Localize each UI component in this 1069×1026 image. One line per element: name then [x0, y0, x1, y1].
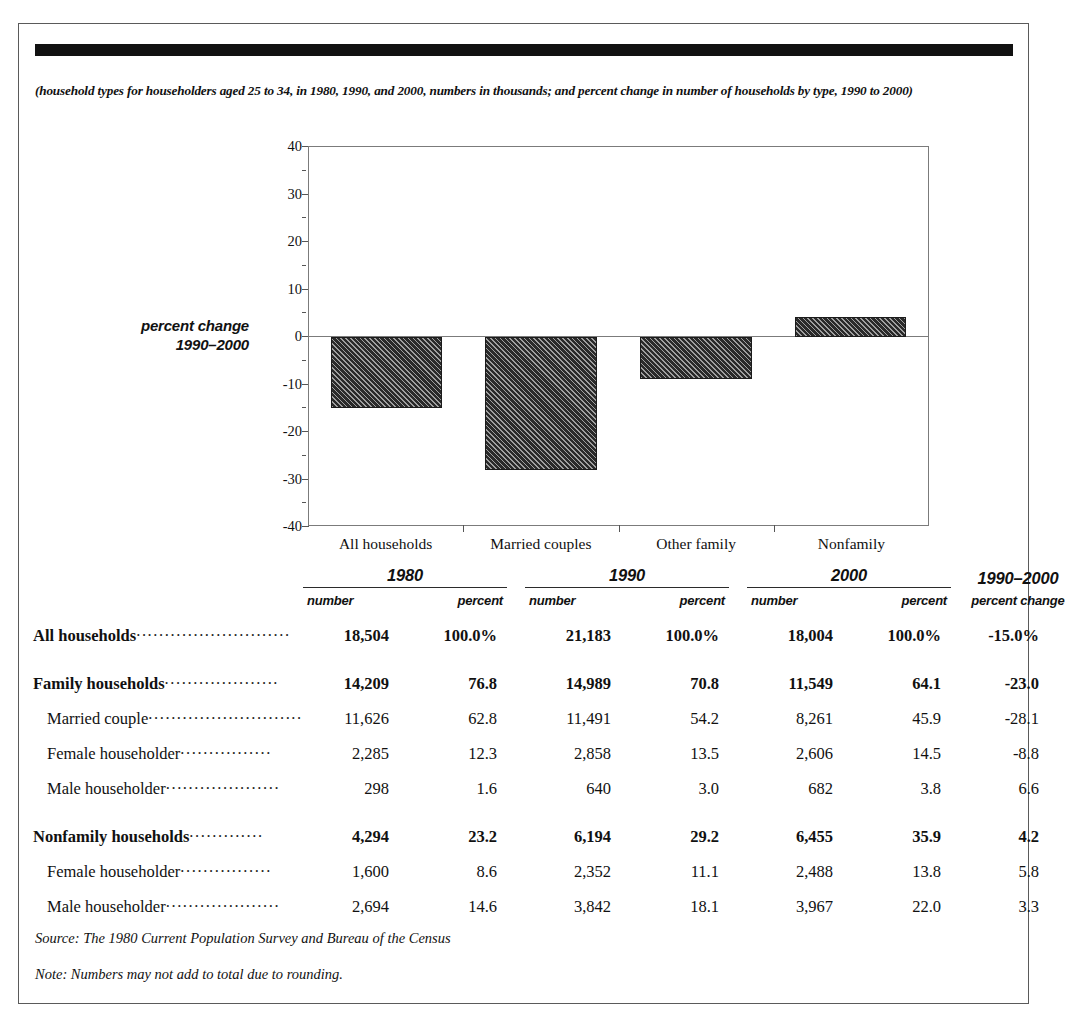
cell-percent-1980: 76.8 — [399, 646, 507, 694]
cell-percent-1980: 1.6 — [399, 764, 507, 799]
cell-percent-2000: 45.9 — [843, 694, 951, 729]
subheader-number-2000: number — [747, 588, 843, 612]
y-tick-mark-minor — [302, 502, 306, 503]
cell-percent-change: 3.3 — [951, 882, 1069, 917]
y-tick-label: 30 — [262, 185, 302, 202]
bar-married-couples — [485, 337, 596, 470]
row-label-text: Male householder — [47, 897, 166, 916]
row-label-text: Male householder — [47, 779, 166, 798]
cell-number-1990: 2,858 — [525, 729, 621, 764]
x-tick-mark — [774, 525, 775, 532]
x-axis-category-labels: All householdsMarried couplesOther famil… — [308, 535, 929, 561]
cell-percent-1990: 11.1 — [621, 847, 729, 882]
cell-percent-change: -23.0 — [951, 646, 1069, 694]
cell-percent-1990: 70.8 — [621, 646, 729, 694]
cell-number-2000: 2,606 — [747, 729, 843, 764]
table-row: Female householder ................2,285… — [19, 729, 1069, 764]
year-header-2000: 2000 — [747, 566, 951, 588]
change-header-subtitle: percent change — [951, 588, 1069, 612]
y-axis-title-line1: percent change — [59, 316, 249, 335]
y-tick-mark-minor — [302, 170, 306, 171]
cell-percent-1980: 100.0% — [399, 611, 507, 646]
y-tick-mark-minor — [302, 217, 306, 218]
row-label-text: Family households — [33, 674, 165, 693]
spacer-cell — [507, 611, 525, 646]
sub-header-row: number percent number percent number per… — [19, 588, 1069, 612]
spacer-cell — [19, 566, 303, 588]
x-tick-mark — [463, 525, 464, 532]
x-axis-tick-marks — [308, 525, 929, 533]
cell-percent-1980: 14.6 — [399, 882, 507, 917]
subheader-number-1990: number — [525, 588, 621, 612]
spacer-cell — [729, 764, 747, 799]
subheader-percent-1990: percent — [621, 588, 729, 612]
row-label: Male householder .................... — [19, 764, 303, 799]
row-leader-dots: ............. — [189, 822, 263, 842]
cell-percent-change: 4.2 — [951, 799, 1069, 847]
spacer-cell — [729, 847, 747, 882]
subheader-percent-2000: percent — [843, 588, 951, 612]
cell-percent-2000: 64.1 — [843, 646, 951, 694]
cell-percent-2000: 13.8 — [843, 847, 951, 882]
cell-percent-1990: 3.0 — [621, 764, 729, 799]
spacer-cell — [729, 694, 747, 729]
row-label-text: Female householder — [47, 862, 180, 881]
cell-percent-change: -15.0% — [951, 611, 1069, 646]
row-leader-dots: .................... — [166, 892, 281, 912]
cell-percent-change: -8.8 — [951, 729, 1069, 764]
y-tick-mark-minor — [302, 455, 306, 456]
spacer-cell — [507, 588, 525, 612]
cell-percent-2000: 14.5 — [843, 729, 951, 764]
cell-percent-change: 5.8 — [951, 847, 1069, 882]
y-tick-mark-minor — [302, 360, 306, 361]
spacer-cell — [19, 588, 303, 612]
cell-number-2000: 18,004 — [747, 611, 843, 646]
household-types-table: 1980 1990 2000 1990–2000 number percent … — [19, 566, 1069, 917]
x-category-label: All households — [339, 535, 432, 553]
cell-number-2000: 8,261 — [747, 694, 843, 729]
bars-layer — [309, 147, 928, 525]
cell-number-1990: 640 — [525, 764, 621, 799]
top-rule-bar — [35, 44, 1013, 56]
row-label: Female householder ................ — [19, 847, 303, 882]
row-label: All households .........................… — [19, 611, 303, 646]
table-body: All households .........................… — [19, 611, 1069, 917]
cell-number-2000: 2,488 — [747, 847, 843, 882]
row-label-text: Nonfamily households — [33, 827, 189, 846]
row-leader-dots: ........................... — [136, 621, 291, 641]
cell-percent-1980: 62.8 — [399, 694, 507, 729]
cell-number-1990: 6,194 — [525, 799, 621, 847]
table-row: Female householder ................1,600… — [19, 847, 1069, 882]
spacer-cell — [729, 729, 747, 764]
y-tick-mark-minor — [302, 312, 306, 313]
spacer-cell — [507, 882, 525, 917]
table-row: Male householder ....................2,6… — [19, 882, 1069, 917]
cell-number-1990: 21,183 — [525, 611, 621, 646]
row-label: Female householder ................ — [19, 729, 303, 764]
spacer-cell — [507, 847, 525, 882]
y-axis-tick-labels: 403020100-10-20-30-40 — [254, 146, 302, 526]
y-tick-label: -20 — [262, 423, 302, 440]
cell-number-1980: 4,294 — [303, 799, 399, 847]
table-row: Married couple .........................… — [19, 694, 1069, 729]
cell-percent-2000: 100.0% — [843, 611, 951, 646]
cell-number-2000: 6,455 — [747, 799, 843, 847]
row-label: Married couple .........................… — [19, 694, 303, 729]
spacer-cell — [507, 566, 525, 588]
cell-number-2000: 682 — [747, 764, 843, 799]
x-category-label: Nonfamily — [818, 535, 885, 553]
y-tick-label: 20 — [262, 233, 302, 250]
spacer-cell — [729, 611, 747, 646]
cell-number-1990: 14,989 — [525, 646, 621, 694]
cell-percent-1980: 12.3 — [399, 729, 507, 764]
year-header-1980: 1980 — [303, 566, 507, 588]
x-category-label: Other family — [656, 535, 736, 553]
y-axis-title-line2: 1990–2000 — [59, 335, 249, 354]
year-header-1990: 1990 — [525, 566, 729, 588]
cell-percent-1980: 23.2 — [399, 799, 507, 847]
cell-percent-2000: 3.8 — [843, 764, 951, 799]
cell-number-1990: 2,352 — [525, 847, 621, 882]
cell-number-1980: 2,694 — [303, 882, 399, 917]
table-row: All households .........................… — [19, 611, 1069, 646]
spacer-cell — [507, 799, 525, 847]
